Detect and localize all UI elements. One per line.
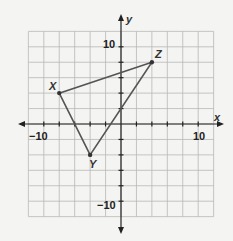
point-z (150, 60, 154, 64)
y-tick-pos10: 10 (103, 38, 115, 50)
y-axis-label: y (125, 13, 133, 25)
y-tick-neg10: −10 (97, 199, 116, 211)
x-axis-label: x (213, 111, 221, 123)
point-y (88, 153, 92, 157)
x-tick-neg10: −10 (29, 130, 48, 142)
point-x-label: X (48, 80, 57, 92)
point-z-label: Z (154, 48, 163, 60)
x-tick-pos10: 10 (193, 130, 205, 142)
point-x (57, 91, 61, 95)
coordinate-plane: x y −10 10 10 −10 X Y Z (0, 0, 233, 241)
point-y-label: Y (89, 158, 98, 170)
